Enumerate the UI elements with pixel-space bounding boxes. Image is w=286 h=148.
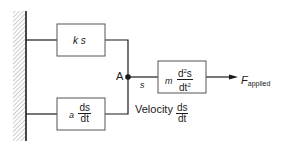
mass-den: dt2 — [178, 80, 192, 93]
force-arrow-head — [229, 75, 238, 80]
mass-coef: m — [165, 76, 173, 86]
mass-fraction: d2s dt2 — [177, 66, 193, 93]
wall-hatch — [13, 11, 25, 141]
force-label: Fapplied — [241, 71, 270, 87]
damper-den: dt — [80, 114, 90, 124]
velocity-fraction: ds dt — [176, 103, 189, 124]
mass-num: d2s — [177, 66, 193, 80]
force-sub: applied — [248, 80, 271, 87]
spring-coef: k — [73, 35, 78, 46]
node-a-label: A — [116, 71, 123, 82]
damper-label: a ds dt — [69, 103, 91, 124]
mass-den-sup: 2 — [187, 82, 190, 88]
mechanical-system-diagram: k s a ds dt m d2s dt2 A s Velocity ds dt… — [0, 0, 286, 148]
velocity-label: Velocity ds dt — [135, 103, 188, 124]
damper-fraction: ds dt — [78, 103, 91, 124]
displacement-label: s — [140, 81, 145, 90]
velocity-prefix: Velocity — [135, 104, 173, 115]
force-base: F — [241, 74, 248, 86]
damper-coef: a — [69, 110, 74, 120]
spring-label: k s — [73, 36, 86, 46]
mass-num-tail: s — [187, 68, 192, 79]
velocity-den: dt — [177, 114, 187, 124]
mass-label: m d2s dt2 — [165, 66, 193, 93]
spring-var: s — [81, 35, 86, 46]
node-a-dot — [125, 74, 131, 80]
